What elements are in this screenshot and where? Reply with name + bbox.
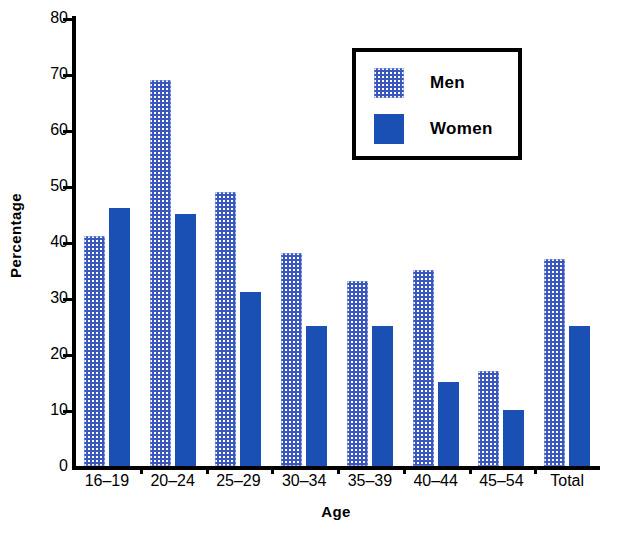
y-axis-tick-labels: 01020304050607080 [28, 0, 68, 470]
x-tick-label: Total [550, 472, 584, 490]
y-tick-label: 40 [28, 234, 68, 250]
legend-item-men: Men [374, 63, 465, 103]
y-tick-label: 60 [28, 122, 68, 138]
chart-legend: Men Women [352, 48, 522, 160]
x-tick-label: 20–24 [150, 472, 195, 490]
legend-label-women: Women [430, 119, 493, 139]
bar-chart-figure: Percentage 01020304050607080 16–1920–242… [0, 0, 617, 535]
x-tick-label: 40–44 [413, 472, 458, 490]
x-tick-label: 35–39 [348, 472, 393, 490]
bar-men-45–54 [478, 371, 499, 466]
legend-label-men: Men [430, 73, 465, 93]
x-tick-label: 45–54 [479, 472, 524, 490]
y-tick-label: 80 [28, 10, 68, 26]
y-tick-label: 20 [28, 346, 68, 362]
y-axis-title: Percentage [0, 0, 30, 470]
y-axis-title-text: Percentage [7, 193, 24, 278]
bar-women-16–19 [109, 208, 130, 466]
bar-women-25–29 [240, 292, 261, 466]
x-axis-title: Age [72, 503, 600, 520]
x-tick-label: 16–19 [85, 472, 130, 490]
bar-women-30–34 [306, 326, 327, 466]
legend-item-women: Women [374, 109, 493, 149]
x-tick-label: 25–29 [216, 472, 261, 490]
bar-women-20–24 [175, 214, 196, 466]
x-tick-label: 30–34 [282, 472, 327, 490]
bar-women-35–39 [372, 326, 393, 466]
y-tick-label: 50 [28, 178, 68, 194]
x-axis-tick-labels: 16–1920–2425–2930–3435–3940–4445–54Total [72, 472, 617, 498]
bar-men-20–24 [150, 80, 171, 466]
bar-women-45–54 [503, 410, 524, 466]
legend-swatch-women [374, 114, 404, 144]
y-tick-label: 10 [28, 402, 68, 418]
bar-women-40–44 [438, 382, 459, 466]
y-tick-label: 70 [28, 66, 68, 82]
legend-swatch-men [374, 68, 404, 98]
y-tick-label: 0 [28, 458, 68, 474]
bar-men-40–44 [413, 270, 434, 466]
bar-women-Total [569, 326, 590, 466]
y-tick-label: 30 [28, 290, 68, 306]
bar-men-35–39 [347, 281, 368, 466]
bar-men-30–34 [281, 253, 302, 466]
bar-men-16–19 [84, 236, 105, 466]
bar-men-25–29 [215, 192, 236, 466]
bar-men-Total [544, 259, 565, 466]
x-axis-line [72, 466, 600, 470]
